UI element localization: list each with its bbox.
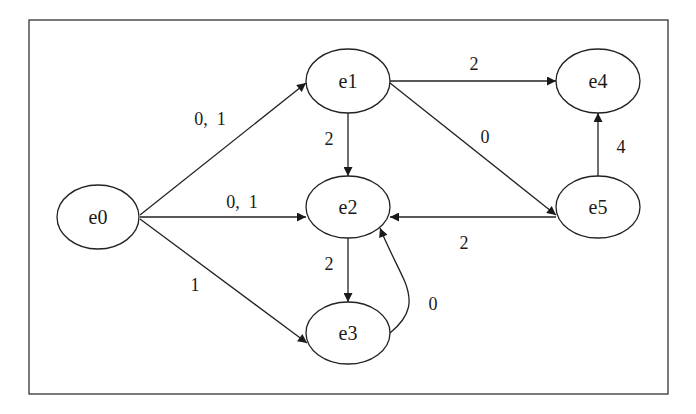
edge-label-e3-e2: 0 xyxy=(429,294,438,314)
edge-label-e1-e5: 0 xyxy=(481,127,490,147)
edge-e1-e5 xyxy=(390,83,556,215)
node-label-e5: e5 xyxy=(589,196,608,218)
state-diagram: e0 e1 e2 e3 e4 e5 0, 1 0, 1 1 2 2 0 2 0 … xyxy=(0,0,696,414)
edge-label-e0-e2: 0, 1 xyxy=(226,192,258,212)
node-label-e1: e1 xyxy=(339,70,358,92)
node-label-e3: e3 xyxy=(339,322,358,344)
edge-label-e5-e4: 4 xyxy=(617,137,626,157)
edge-e0-e1 xyxy=(140,83,306,215)
node-label-e4: e4 xyxy=(589,70,608,92)
edge-label-e2-e3: 2 xyxy=(325,254,334,274)
edge-label-e0-e1: 0, 1 xyxy=(194,109,226,129)
edge-label-e1-e2: 2 xyxy=(325,129,334,149)
edge-e0-e3 xyxy=(140,219,307,343)
edge-label-e1-e4: 2 xyxy=(470,54,479,74)
edge-label-e0-e3: 1 xyxy=(191,275,200,295)
edge-label-e5-e2: 2 xyxy=(460,233,469,253)
node-label-e0: e0 xyxy=(89,206,108,228)
node-label-e2: e2 xyxy=(339,196,358,218)
